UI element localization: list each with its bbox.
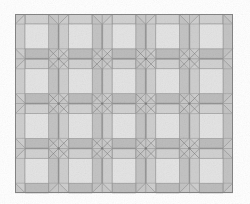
bevel-bottom <box>69 138 93 148</box>
paver-face <box>25 114 49 139</box>
bevel-bottom <box>69 49 93 59</box>
bevel-top <box>25 59 49 69</box>
bevel-bottom <box>199 138 223 148</box>
bevel-top <box>112 104 136 114</box>
bevel-bottom <box>156 94 180 104</box>
bevel-bottom <box>112 94 136 104</box>
bevel-top <box>112 59 136 69</box>
paver-face <box>69 158 93 183</box>
paver-face <box>25 24 49 49</box>
pattern-canvas: Grayscale seamless texture of square pav… <box>0 0 250 204</box>
bevel-top <box>156 59 180 69</box>
paver-face <box>199 24 223 49</box>
bevel-bottom <box>112 183 136 193</box>
paver-face <box>199 158 223 183</box>
bevel-bottom <box>156 183 180 193</box>
bevel-bottom <box>69 94 93 104</box>
paver-face <box>69 114 93 139</box>
paver-face <box>156 69 180 94</box>
joint-star-center <box>145 147 147 149</box>
bevel-top <box>156 104 180 114</box>
bevel-top <box>25 104 49 114</box>
joint-star-center <box>188 103 190 105</box>
bevel-bottom <box>25 138 49 148</box>
bevel-top <box>199 104 223 114</box>
paver-face <box>199 69 223 94</box>
bevel-bottom <box>112 138 136 148</box>
paver-face <box>112 158 136 183</box>
paver-face <box>25 158 49 183</box>
bevel-top <box>112 149 136 159</box>
bevel-bottom <box>25 94 49 104</box>
bevel-top <box>199 149 223 159</box>
paver-face <box>69 69 93 94</box>
bevel-bottom <box>25 183 49 193</box>
paver-face <box>199 114 223 139</box>
bevel-top <box>25 15 49 25</box>
bevel-top <box>156 149 180 159</box>
bevel-bottom <box>112 49 136 59</box>
bevel-top <box>69 149 93 159</box>
bevel-top <box>156 15 180 25</box>
joint-star-center <box>58 58 60 60</box>
bevel-top <box>112 15 136 25</box>
joint-star-center <box>145 103 147 105</box>
bevel-top <box>25 149 49 159</box>
paver-face <box>112 69 136 94</box>
paver-face <box>25 69 49 94</box>
paver-face <box>156 114 180 139</box>
joint-star-center <box>101 103 103 105</box>
paver-grid <box>15 14 233 193</box>
bevel-bottom <box>199 183 223 193</box>
joint-star-center <box>58 147 60 149</box>
paver-face <box>69 24 93 49</box>
paver-face <box>156 24 180 49</box>
joint-star-center <box>101 147 103 149</box>
bevel-bottom <box>156 49 180 59</box>
bevel-top <box>69 104 93 114</box>
paver-face <box>112 114 136 139</box>
bevel-top <box>69 15 93 25</box>
bevel-bottom <box>25 49 49 59</box>
paver-pattern-svg <box>0 0 250 204</box>
paver-face <box>112 24 136 49</box>
bevel-bottom <box>199 94 223 104</box>
bevel-top <box>199 15 223 25</box>
bevel-top <box>69 59 93 69</box>
joint-star-center <box>58 103 60 105</box>
joint-star-center <box>145 58 147 60</box>
bevel-bottom <box>156 138 180 148</box>
joint-star-center <box>101 58 103 60</box>
joint-star-center <box>188 58 190 60</box>
paver-face <box>156 158 180 183</box>
bevel-bottom <box>199 49 223 59</box>
joint-star-center <box>188 147 190 149</box>
bevel-top <box>199 59 223 69</box>
bevel-bottom <box>69 183 93 193</box>
